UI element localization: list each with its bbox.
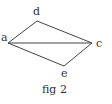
- point-label-c: c: [96, 37, 102, 50]
- geometry-diagram: a d c e fig 2: [0, 0, 112, 104]
- point-label-d: d: [33, 5, 40, 18]
- figure-caption: fig 2: [42, 83, 67, 96]
- point-label-e: e: [61, 67, 68, 80]
- segment-e-c: [64, 43, 92, 66]
- point-label-a: a: [1, 31, 8, 44]
- segment-a-d: [8, 21, 37, 43]
- segment-d-c: [37, 21, 92, 43]
- figure-canvas: a d c e fig 2: [0, 0, 112, 104]
- segments: [8, 21, 92, 66]
- segment-a-e: [8, 43, 64, 66]
